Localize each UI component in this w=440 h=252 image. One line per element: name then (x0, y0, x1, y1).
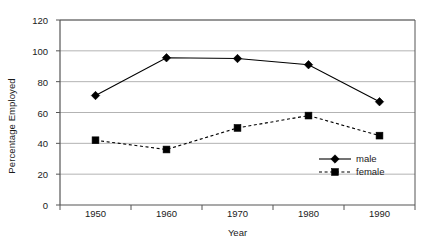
x-axis-tick-label: 1970 (227, 208, 248, 219)
x-axis-tick-label: 1990 (369, 208, 390, 219)
x-axis-tick-label: 1960 (156, 208, 177, 219)
series-female (92, 112, 383, 153)
data-point-female-1980 (305, 112, 312, 119)
x-axis-tick-label: 1950 (85, 208, 106, 219)
legend-item-female[interactable]: female (318, 165, 410, 178)
line-chart: Percentage Employed 020406080100120 1950… (0, 0, 440, 252)
legend-label: male (356, 152, 377, 165)
data-point-male-1950 (91, 91, 99, 99)
legend-marker-square-icon (318, 166, 352, 178)
legend-item-male[interactable]: male (318, 152, 410, 165)
data-point-male-1990 (375, 98, 383, 106)
chart-legend: malefemale (318, 152, 410, 178)
legend-marker-diamond-icon (318, 153, 352, 165)
x-axis-tick-labels: 19501960197019801990 (60, 208, 415, 224)
legend-diamond-icon (331, 154, 339, 162)
data-point-female-1950 (92, 137, 99, 144)
data-point-female-1990 (376, 132, 383, 139)
x-axis-title-text: Year (228, 227, 247, 238)
legend-square-icon (332, 168, 339, 175)
series-line-female (96, 116, 380, 150)
data-point-male-1980 (304, 61, 312, 69)
series-male (91, 54, 383, 106)
data-point-male-1970 (233, 54, 241, 62)
data-point-male-1960 (162, 54, 170, 62)
legend-label: female (356, 165, 385, 178)
data-point-female-1970 (234, 125, 241, 132)
series-line-male (96, 58, 380, 102)
data-point-female-1960 (163, 146, 170, 153)
x-axis-title: Year (60, 227, 415, 238)
x-axis-tick-label: 1980 (298, 208, 319, 219)
